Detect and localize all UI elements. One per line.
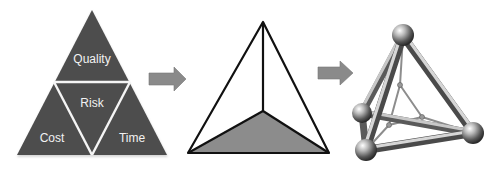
arrow-right-icon xyxy=(149,67,186,91)
label-risk: Risk xyxy=(80,96,104,110)
tetrahedron-3d-frame xyxy=(352,24,484,161)
label-cost: Cost xyxy=(40,131,65,145)
label-time: Time xyxy=(119,131,146,145)
tetrahedron-outline xyxy=(188,22,329,153)
diagram-canvas: Quality Risk Cost Time xyxy=(0,0,499,173)
project-triangle: Quality Risk Cost Time xyxy=(17,10,168,157)
label-quality: Quality xyxy=(73,52,110,66)
arrow-right-icon xyxy=(318,61,353,85)
frame-ball-top xyxy=(392,24,414,46)
frame-ball-right xyxy=(462,122,484,144)
frame-ball-back-left xyxy=(352,103,372,123)
frame-ball-front-left xyxy=(355,139,377,161)
